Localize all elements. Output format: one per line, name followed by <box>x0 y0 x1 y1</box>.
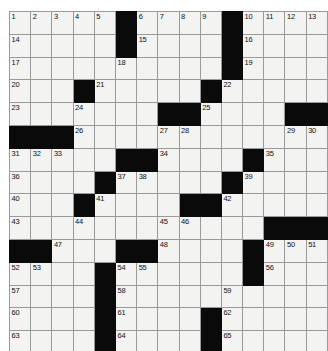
crossword-cell[interactable]: 46 <box>179 217 200 240</box>
crossword-cell[interactable] <box>221 262 242 285</box>
crossword-cell[interactable] <box>285 57 306 80</box>
crossword-cell[interactable] <box>285 34 306 57</box>
crossword-cell[interactable] <box>115 125 136 148</box>
crossword-cell[interactable] <box>137 194 158 217</box>
crossword-cell[interactable]: 45 <box>158 217 179 240</box>
crossword-cell[interactable]: 22 <box>221 80 242 103</box>
crossword-cell[interactable] <box>94 57 115 80</box>
crossword-cell[interactable]: 4 <box>73 12 94 35</box>
crossword-cell[interactable]: 29 <box>285 125 306 148</box>
crossword-cell[interactable]: 3 <box>52 12 73 35</box>
crossword-cell[interactable] <box>115 80 136 103</box>
crossword-cell[interactable]: 53 <box>31 262 52 285</box>
crossword-cell[interactable] <box>179 148 200 171</box>
crossword-cell[interactable] <box>264 194 285 217</box>
crossword-cell[interactable] <box>158 171 179 194</box>
crossword-cell[interactable]: 49 <box>264 239 285 262</box>
crossword-cell[interactable]: 9 <box>200 12 221 35</box>
crossword-cell[interactable] <box>243 217 264 240</box>
crossword-cell[interactable]: 61 <box>115 308 136 331</box>
crossword-cell[interactable] <box>31 103 52 126</box>
crossword-cell[interactable] <box>264 57 285 80</box>
crossword-cell[interactable]: 62 <box>221 308 242 331</box>
crossword-cell[interactable] <box>158 194 179 217</box>
crossword-cell[interactable] <box>285 262 306 285</box>
crossword-cell[interactable] <box>73 57 94 80</box>
crossword-cell[interactable] <box>264 80 285 103</box>
crossword-cell[interactable]: 54 <box>115 262 136 285</box>
crossword-cell[interactable] <box>52 171 73 194</box>
crossword-cell[interactable]: 11 <box>264 12 285 35</box>
crossword-cell[interactable]: 56 <box>264 262 285 285</box>
crossword-cell[interactable]: 65 <box>221 331 242 351</box>
crossword-cell[interactable] <box>52 34 73 57</box>
crossword-cell[interactable] <box>94 148 115 171</box>
crossword-cell[interactable] <box>158 34 179 57</box>
crossword-cell[interactable] <box>137 80 158 103</box>
crossword-cell[interactable] <box>73 148 94 171</box>
crossword-cell[interactable]: 33 <box>52 148 73 171</box>
crossword-cell[interactable] <box>285 285 306 308</box>
crossword-cell[interactable]: 36 <box>10 171 31 194</box>
crossword-cell[interactable] <box>200 262 221 285</box>
crossword-cell[interactable]: 34 <box>158 148 179 171</box>
crossword-cell[interactable]: 52 <box>10 262 31 285</box>
crossword-cell[interactable]: 26 <box>73 125 94 148</box>
crossword-cell[interactable]: 27 <box>158 125 179 148</box>
crossword-cell[interactable] <box>137 57 158 80</box>
crossword-cell[interactable]: 14 <box>10 34 31 57</box>
crossword-cell[interactable] <box>243 194 264 217</box>
crossword-cell[interactable] <box>137 125 158 148</box>
crossword-cell[interactable] <box>179 80 200 103</box>
crossword-cell[interactable] <box>264 125 285 148</box>
crossword-cell[interactable] <box>158 57 179 80</box>
crossword-cell[interactable]: 41 <box>94 194 115 217</box>
crossword-cell[interactable] <box>306 148 327 171</box>
crossword-cell[interactable]: 16 <box>243 34 264 57</box>
crossword-cell[interactable] <box>52 57 73 80</box>
crossword-cell[interactable]: 31 <box>10 148 31 171</box>
crossword-cell[interactable] <box>115 194 136 217</box>
crossword-cell[interactable]: 48 <box>158 239 179 262</box>
crossword-cell[interactable]: 15 <box>137 34 158 57</box>
crossword-cell[interactable] <box>137 217 158 240</box>
crossword-cell[interactable] <box>73 34 94 57</box>
crossword-cell[interactable]: 28 <box>179 125 200 148</box>
crossword-cell[interactable] <box>179 262 200 285</box>
crossword-cell[interactable] <box>31 194 52 217</box>
crossword-cell[interactable]: 44 <box>73 217 94 240</box>
crossword-cell[interactable] <box>73 285 94 308</box>
crossword-cell[interactable]: 13 <box>306 12 327 35</box>
crossword-cell[interactable]: 24 <box>73 103 94 126</box>
crossword-cell[interactable] <box>200 34 221 57</box>
crossword-cell[interactable] <box>306 308 327 331</box>
crossword-cell[interactable] <box>243 285 264 308</box>
crossword-cell[interactable] <box>243 125 264 148</box>
crossword-cell[interactable] <box>200 171 221 194</box>
crossword-cell[interactable]: 40 <box>10 194 31 217</box>
crossword-cell[interactable]: 55 <box>137 262 158 285</box>
crossword-cell[interactable] <box>285 80 306 103</box>
crossword-cell[interactable] <box>137 308 158 331</box>
crossword-cell[interactable] <box>179 239 200 262</box>
crossword-cell[interactable] <box>306 262 327 285</box>
crossword-cell[interactable]: 8 <box>179 12 200 35</box>
crossword-cell[interactable]: 18 <box>115 57 136 80</box>
crossword-cell[interactable]: 21 <box>94 80 115 103</box>
crossword-cell[interactable] <box>264 34 285 57</box>
crossword-cell[interactable]: 19 <box>243 57 264 80</box>
crossword-cell[interactable] <box>94 103 115 126</box>
crossword-cell[interactable]: 38 <box>137 171 158 194</box>
crossword-cell[interactable] <box>137 285 158 308</box>
crossword-cell[interactable] <box>31 34 52 57</box>
crossword-cell[interactable] <box>306 331 327 351</box>
crossword-cell[interactable] <box>179 331 200 351</box>
crossword-cell[interactable] <box>306 34 327 57</box>
crossword-cell[interactable]: 20 <box>10 80 31 103</box>
crossword-cell[interactable] <box>31 57 52 80</box>
crossword-cell[interactable] <box>285 194 306 217</box>
crossword-cell[interactable]: 35 <box>264 148 285 171</box>
crossword-cell[interactable] <box>264 103 285 126</box>
crossword-cell[interactable] <box>264 331 285 351</box>
crossword-cell[interactable] <box>200 239 221 262</box>
